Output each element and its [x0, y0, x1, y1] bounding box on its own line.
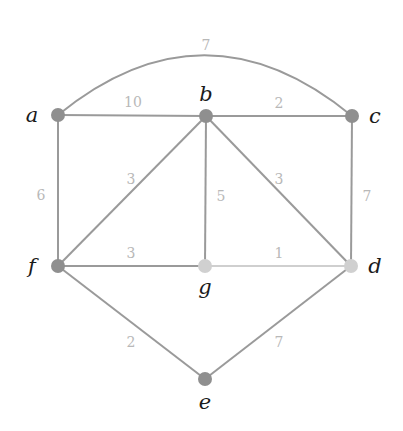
edge-b-d: [206, 116, 351, 266]
edge-weight-a-b: 10: [124, 94, 142, 110]
edge-weight-b-d: 3: [275, 171, 284, 187]
node-a: [51, 108, 65, 122]
node-label-a: a: [26, 103, 39, 127]
node-label-g: g: [198, 275, 211, 299]
edge-weight-a-c: 7: [202, 37, 211, 53]
edge-weight-f-g: 3: [127, 245, 136, 261]
edge-a-b: [58, 115, 206, 116]
node-d: [344, 259, 358, 273]
edge-weight-c-d: 7: [363, 188, 372, 204]
node-label-d: d: [368, 254, 381, 278]
node-c: [345, 109, 359, 123]
edge-weight-d-e: 7: [275, 334, 284, 350]
graph-diagram: 7102635373127 abcdefg: [0, 0, 403, 431]
edge-weight-b-c: 2: [275, 95, 284, 111]
node-labels-layer: abcdefg: [26, 82, 382, 414]
edge-c-d: [351, 116, 352, 266]
edge-b-f: [58, 116, 206, 266]
graph-canvas: 7102635373127 abcdefg: [0, 0, 403, 431]
edge-weight-f-e: 2: [127, 334, 136, 350]
node-label-f: f: [26, 254, 39, 278]
node-f: [51, 259, 65, 273]
edge-weight-g-d: 1: [275, 245, 284, 261]
edge-weight-b-f: 3: [127, 171, 136, 187]
node-b: [199, 109, 213, 123]
edge-d-e: [205, 266, 351, 379]
edge-weight-b-g: 5: [217, 188, 226, 204]
edge-b-g: [205, 116, 206, 266]
edge-weight-a-f: 6: [37, 187, 46, 203]
node-label-e: e: [199, 390, 211, 414]
node-label-b: b: [199, 82, 212, 106]
node-e: [198, 372, 212, 386]
node-label-c: c: [369, 104, 381, 128]
edge-f-e: [58, 266, 205, 379]
node-g: [198, 259, 212, 273]
